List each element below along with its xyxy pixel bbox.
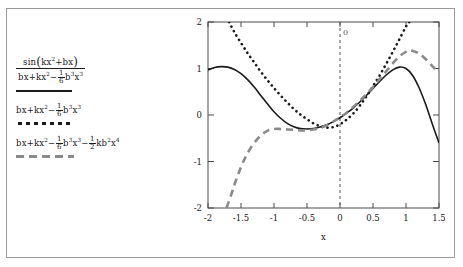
y-tick-label: 1 <box>197 64 202 74</box>
t3-minus-sign: − <box>48 105 55 115</box>
x-tick-label: -2 <box>204 213 212 223</box>
x-tick-label: 0 <box>337 213 342 223</box>
t4-frac1-numerator: 1 <box>56 136 63 143</box>
chart-legend: sin(kx2+bx) bx+kx2−16b3x3 bx+kx2−16b3x3 … <box>16 58 164 169</box>
legend-swatch-dotted <box>16 120 164 129</box>
sin-function-name: sin <box>23 57 36 67</box>
num-term-kx: kx <box>41 57 51 67</box>
t4-frac2-numerator: 1 <box>89 136 96 143</box>
x-tick-label: -0.5 <box>299 213 315 223</box>
y-tick-label: -2 <box>194 203 202 213</box>
axes-layer <box>208 22 439 208</box>
num-term-bx: +bx <box>55 57 73 67</box>
legend-fraction-numerator: sin(kx2+bx) <box>16 58 85 68</box>
legend-fraction-exact: sin(kx2+bx) bx+kx2−16b3x3 <box>16 58 85 85</box>
t4-inline-fraction-one-half: 12 <box>89 136 96 151</box>
t3-term-1: bx+kx <box>16 105 44 115</box>
legend-swatch-solid <box>16 87 164 96</box>
legend-expression-taylor4: bx+kx2−16b3x3−12kb2x4 <box>16 136 164 151</box>
x-tick-label: 0.5 <box>366 213 380 223</box>
legend-expression-exact: sin(kx2+bx) bx+kx2−16b3x3 <box>16 58 164 85</box>
t4-term-3-x-exponent: 4 <box>116 137 120 143</box>
t4-inline-fraction-one-sixth: 16 <box>56 136 63 151</box>
x-tick-label: 1.5 <box>432 213 445 223</box>
t3-inline-fraction-one-sixth: 16 <box>56 103 63 118</box>
den-term-1: bx+kx <box>18 72 46 82</box>
dashed-line-sample <box>16 155 74 158</box>
plot-annotation: 0 <box>343 28 348 37</box>
legend-item-exact: sin(kx2+bx) bx+kx2−16b3x3 <box>16 58 164 96</box>
plot-panel: -2-1.5-1-0.500.511.5-2-1012x0 <box>170 16 445 248</box>
series-curve-solid <box>208 67 439 143</box>
t3-term-2-x-exponent: 3 <box>77 104 81 110</box>
x-tick-label: -1 <box>270 213 278 223</box>
legend-fraction-denominator: bx+kx2−16b3x3 <box>16 68 85 85</box>
t4-frac2-denominator: 2 <box>89 143 96 151</box>
t4-term-3-kb: kb <box>96 138 107 148</box>
t4-term-1: bx+kx <box>16 138 44 148</box>
legend-item-taylor4: bx+kx2−16b3x3−12kb2x4 <box>16 136 164 162</box>
legend-expression-taylor3: bx+kx2−16b3x3 <box>16 103 164 118</box>
x-tick-label: 1 <box>403 213 408 223</box>
y-tick-label: -1 <box>194 157 202 167</box>
series-curve-dashed <box>226 50 439 208</box>
dotted-line-sample <box>16 122 74 125</box>
x-tick-label: -1.5 <box>233 213 249 223</box>
den-inline-fraction-one-sixth: 16 <box>58 70 65 85</box>
y-tick-label: 0 <box>197 110 202 120</box>
den-minus-sign: − <box>50 72 57 82</box>
legend-swatch-dashed <box>16 153 164 162</box>
figure-container: sin(kx2+bx) bx+kx2−16b3x3 bx+kx2−16b3x3 … <box>0 0 463 267</box>
den-frac-denominator: 6 <box>58 77 65 85</box>
legend-item-taylor3: bx+kx2−16b3x3 <box>16 103 164 129</box>
x-axis-title: x <box>321 232 326 242</box>
t4-minus-sign-1: − <box>48 138 55 148</box>
t3-frac-numerator: 1 <box>56 103 63 110</box>
t4-frac1-denominator: 6 <box>56 143 63 151</box>
den-term-2-x-exponent: 3 <box>79 71 83 77</box>
plot-svg: -2-1.5-1-0.500.511.5-2-1012x0 <box>170 16 445 248</box>
den-frac-numerator: 1 <box>58 70 65 77</box>
solid-line-sample <box>16 90 72 92</box>
t4-minus-sign-2: − <box>81 138 88 148</box>
close-paren: ) <box>73 55 78 69</box>
t3-frac-denominator: 6 <box>56 110 63 118</box>
plot-border <box>208 22 439 208</box>
y-tick-label: 2 <box>197 17 202 27</box>
series-curve-dotted <box>229 22 409 128</box>
series-layer <box>208 22 439 208</box>
